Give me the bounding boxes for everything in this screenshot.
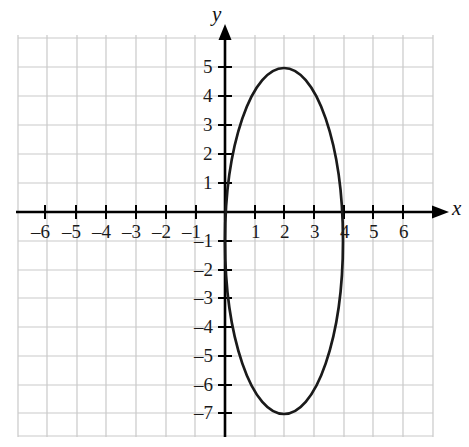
y-tick-label-2: 2 <box>203 144 213 163</box>
y-axis-label: y <box>212 4 221 25</box>
x-axis-label: x <box>452 198 461 219</box>
x-tick-label-6: 6 <box>399 222 409 241</box>
x-tick-label-1: 1 <box>251 222 261 241</box>
x-axis <box>16 206 449 219</box>
y-tick-label-neg5: –5 <box>194 346 213 365</box>
y-tick-label-neg2: –2 <box>194 260 213 279</box>
graph-figure: x y –6 –5 –4 –3 –2 –1 1 2 3 4 5 6 5 4 3 … <box>0 0 469 447</box>
y-tick-label-3: 3 <box>203 115 213 134</box>
y-tick-label-4: 4 <box>203 86 213 105</box>
x-tick-label-neg6: –6 <box>31 222 50 241</box>
x-tick-label-neg2: –2 <box>152 222 171 241</box>
y-tick-label-5: 5 <box>203 57 213 76</box>
x-tick-label-3: 3 <box>310 222 320 241</box>
x-tick-label-neg4: –4 <box>92 222 111 241</box>
x-tick-label-neg5: –5 <box>62 222 81 241</box>
x-tick-label-4: 4 <box>340 222 350 241</box>
y-tick-label-neg7: –7 <box>194 403 213 422</box>
x-tick-label-neg3: –3 <box>122 222 141 241</box>
y-tick-label-neg6: –6 <box>194 375 213 394</box>
y-tick-label-neg1: –1 <box>194 231 213 250</box>
y-tick-label-1: 1 <box>203 173 213 192</box>
x-tick-label-5: 5 <box>369 222 379 241</box>
x-tick-label-2: 2 <box>280 222 290 241</box>
y-tick-label-neg4: –4 <box>194 317 213 336</box>
y-tick-label-neg3: –3 <box>194 288 213 307</box>
